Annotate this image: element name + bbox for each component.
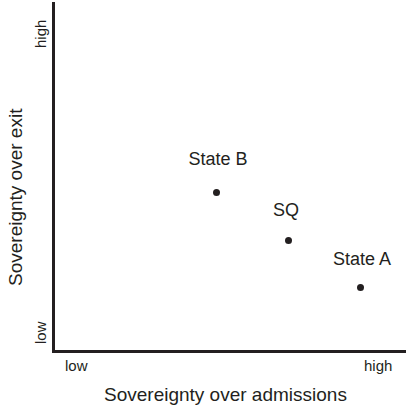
x-axis-tick-high: high: [364, 358, 392, 373]
data-point-label: State A: [333, 250, 391, 268]
x-axis-line: [52, 350, 406, 353]
data-point: [285, 237, 292, 244]
data-point-label: State B: [188, 150, 247, 168]
x-axis-tick-low: low: [65, 358, 88, 373]
scatter-chart-figure: high low low high Sovereignty over exit …: [0, 0, 406, 409]
y-axis-title: Sovereignty over exit: [6, 109, 25, 286]
y-axis-line: [52, 2, 55, 353]
data-point: [213, 189, 220, 196]
data-point-label: SQ: [273, 201, 299, 219]
data-point: [357, 284, 364, 291]
y-axis-tick-high: high: [33, 20, 48, 48]
x-axis-title: Sovereignty over admissions: [104, 385, 347, 404]
y-axis-tick-low: low: [33, 321, 48, 344]
